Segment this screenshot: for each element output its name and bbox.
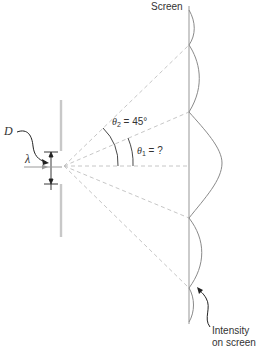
slit-width-label: D bbox=[4, 125, 13, 137]
theta1-arc bbox=[128, 138, 133, 166]
intensity-label: Intensity on screen bbox=[212, 325, 256, 349]
slit-width-marker bbox=[44, 152, 58, 190]
theta2-value: = 45° bbox=[121, 116, 148, 127]
intensity-curve bbox=[189, 10, 222, 322]
single-slit-diffraction-diagram bbox=[0, 0, 261, 350]
theta2-label: θ2 = 45° bbox=[112, 117, 147, 128]
diffraction-rays bbox=[64, 45, 189, 288]
screen-label: Screen bbox=[151, 2, 183, 12]
intensity-pointer-arrow bbox=[199, 290, 210, 327]
theta1-label: θ1 = ? bbox=[137, 146, 163, 157]
theta2-arc bbox=[103, 128, 118, 166]
intensity-label-line1: Intensity bbox=[212, 325, 256, 337]
incident-wave-arrowhead bbox=[42, 165, 48, 170]
D-arrowhead bbox=[42, 159, 49, 165]
theta1-value: = ? bbox=[146, 145, 163, 156]
D-pointer-arrow bbox=[17, 131, 46, 162]
wavelength-label: λ bbox=[25, 153, 30, 165]
intensity-label-line2: on screen bbox=[212, 337, 256, 349]
